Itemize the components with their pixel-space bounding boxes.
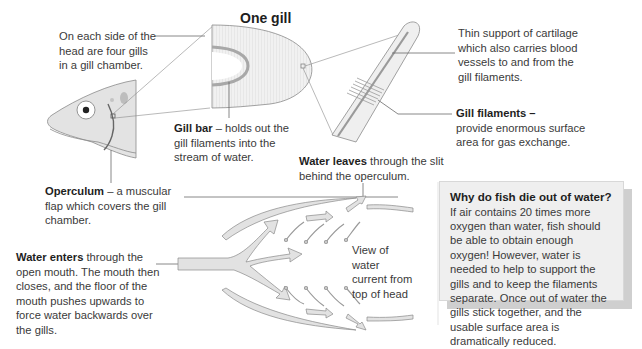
label-water-enters: Water enters through the open mouth. The… <box>16 250 162 338</box>
fish-head-illustration <box>48 80 137 158</box>
diagram-title: One gill <box>240 10 291 26</box>
label-cartilage: Thin support of cartilage which also car… <box>458 26 586 84</box>
label-operculum: Operculum – a muscular flap which covers… <box>45 184 185 228</box>
label-gill-bar: Gill bar – holds out the gill filaments … <box>174 121 290 165</box>
label-gill-chamber: On each side of the head are four gills … <box>59 29 159 73</box>
info-box-body: If air contains 20 times more oxygen tha… <box>450 205 613 349</box>
info-box: Why do fish die out of water? If air con… <box>439 181 624 301</box>
gill-illustration <box>212 25 312 118</box>
info-box-heading: Why do fish die out of water? <box>450 190 613 205</box>
gill-flow-marks <box>285 222 361 306</box>
filament-closeup <box>332 22 455 142</box>
label-view-caption: View of water current from top of head <box>352 243 414 301</box>
label-water-leaves: Water leaves through the slit behind the… <box>299 154 444 183</box>
label-gill-filaments: Gill filaments – provide enormous surfac… <box>456 106 586 150</box>
